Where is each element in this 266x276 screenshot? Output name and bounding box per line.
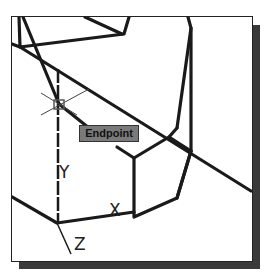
osnap-endpoint-tooltip: Endpoint [79,125,139,142]
viewport-shadow-bottom [19,262,260,269]
ucs-z-label: Z [74,234,86,254]
ucs-y-label: Y [59,162,69,182]
ucs-x-label: X [109,200,121,220]
viewport-shadow-right [253,25,260,269]
drawing-viewport[interactable]: Endpoint Y X Z [11,16,253,262]
